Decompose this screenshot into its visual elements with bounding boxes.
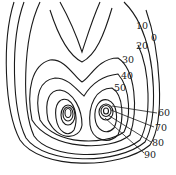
- contour-label-80: 80: [152, 138, 164, 148]
- contour-label-20: 20: [136, 41, 148, 51]
- contour-label-90: 90: [144, 150, 156, 160]
- contour-label-30: 30: [122, 55, 134, 65]
- contour-label-10: 10: [136, 21, 148, 31]
- contour-label-50: 50: [114, 83, 126, 93]
- contour-label-0: 0: [151, 33, 157, 43]
- contour-label-70: 70: [155, 123, 167, 133]
- contour-label-60: 60: [158, 108, 170, 118]
- contour-diagram: 10 0 20 30 40 50 60 70 80 90: [0, 0, 176, 175]
- contour-label-40: 40: [121, 71, 133, 81]
